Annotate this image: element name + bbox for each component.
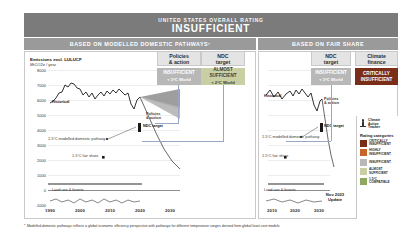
rating-climate-finance-value: CRITICALLY INSUFFICIENT — [355, 71, 398, 82]
rating-ndc-domestic-value: ALMOST SUFFICIENT — [201, 67, 245, 78]
label-land-use-forests: Land use & forests — [52, 188, 84, 192]
legend-swatch-critically-insufficient — [360, 140, 367, 147]
rating-climate-finance[interactable]: CRITICALLY INSUFFICIENT — [355, 68, 398, 85]
rating-ndc-target-domestic[interactable]: ALMOST SUFFICIENT < 2°C World — [201, 68, 245, 85]
connector-ndc-fairshare-h — [286, 141, 331, 142]
label-policies-action-2: & action — [146, 116, 161, 120]
update-tag: Nov 2023 Update — [318, 192, 352, 202]
fair-share-marker — [102, 156, 105, 159]
column-header-ndc-domestic-line2: target — [216, 59, 230, 65]
column-header-policies-action-line1: Policies — [169, 53, 189, 59]
legend-label-compat-2: COMPATIBLE — [369, 180, 390, 184]
connector-ndc-domestic — [223, 85, 224, 141]
connector-ndc-domestic-h — [142, 141, 224, 142]
overall-rating-banner: UNITED STATES OVERALL RATING INSUFFICIEN… — [24, 13, 398, 37]
column-header-ndc-target-domestic[interactable]: NDC target — [201, 51, 245, 66]
legend-item-critically-insufficient[interactable]: CRITICALLY INSUFFICIENT — [360, 140, 396, 147]
land-use-forests-line — [50, 199, 140, 203]
historical-line — [50, 83, 140, 109]
legend-swatch-almost-sufficient — [360, 168, 367, 175]
section-header-modelled-domestic-pathways: BASED ON MODELLED DOMESTIC PATHWAYS* — [24, 38, 256, 50]
column-header-ndc-fairshare-line2: target — [324, 59, 338, 65]
legend-swatch-insufficient — [360, 159, 367, 166]
rating-policies-action[interactable]: INSUFFICIENT < 3°C World — [157, 68, 201, 85]
legend-label-crit-2: INSUFFICIENT — [369, 142, 391, 146]
overall-rating-value: INSUFFICIENT — [24, 23, 398, 35]
legend-item-almost-sufficient[interactable]: ALMOST SUFFICIENT — [360, 168, 396, 175]
historical-line-right — [266, 89, 322, 111]
legend-panel: Climate Action Tracker Rating categories… — [356, 116, 398, 219]
column-header-policies-action[interactable]: Policies & action — [157, 51, 201, 66]
rating-policies-action-value: INSUFFICIENT — [163, 70, 195, 76]
country-rating-label: UNITED STATES OVERALL RATING — [24, 13, 398, 23]
label-land-use-forests-right: Land use & forests — [264, 188, 296, 192]
legend-item-insufficient[interactable]: INSUFFICIENT — [360, 159, 396, 166]
rating-ndc-fairshare-value: INSUFFICIENT — [315, 70, 347, 76]
legend-label-highly-2: INSUFFICIENT — [369, 152, 391, 156]
section-header-left-label: BASED ON MODELLED DOMESTIC PATHWAYS — [70, 41, 208, 47]
label-ndc-target: NDC target — [143, 124, 163, 128]
legend-swatch-15c-compatible — [360, 178, 367, 185]
connector-policies-action-h — [155, 123, 179, 124]
infographic-root: UNITED STATES OVERALL RATING INSUFFICIEN… — [0, 0, 419, 244]
rating-ndc-fairshare-world: < 3°C World — [319, 77, 343, 83]
pathway-15-line-right — [322, 99, 334, 167]
land-use-forests-line-right — [266, 199, 322, 203]
legend-item-15c-compatible[interactable]: 1.5°C COMPATIBLE — [360, 178, 396, 185]
label-fair-share-15-right: 1.5°C fair share — [262, 154, 288, 158]
rating-policies-action-world: < 3°C World — [167, 77, 191, 83]
legend-swatch-highly-insufficient — [360, 149, 367, 156]
footnote-text: Modelled domestic pathways reflects a gl… — [27, 224, 280, 228]
logo-line-tracker: Tracker — [368, 126, 380, 130]
footnote-star-icon: * — [24, 224, 25, 228]
column-header-climate-finance-line1: Climate — [367, 53, 386, 59]
legend-label-almost-2: SUFFICIENT — [369, 171, 388, 175]
legend-label-insuf-1: INSUFFICIENT — [369, 160, 391, 164]
section-header-fair-share: BASED ON FAIR SHARE — [258, 38, 398, 50]
column-header-ndc-fairshare-line1: NDC — [324, 53, 338, 59]
section-header-right-label: BASED ON FAIR SHARE — [292, 41, 364, 47]
legend-title: Rating categories — [360, 133, 396, 138]
label-historical-right: Historical — [264, 94, 281, 98]
thermometer-icon — [360, 119, 366, 128]
label-ndc-target-right: NDC target — [324, 124, 344, 128]
footnote: *Modelled domestic pathways reflects a g… — [24, 224, 398, 229]
footnote-marker-icon: * — [208, 42, 210, 47]
column-header-ndc-target-fairshare[interactable]: NDC target — [311, 51, 351, 66]
update-tag-line2: Update — [318, 197, 352, 202]
label-pathway-15-domestic-right: 1.5°C modelled domestic pathway — [262, 135, 319, 139]
column-header-ndc-domestic-line1: NDC — [216, 53, 230, 59]
column-header-climate-finance[interactable]: Climate finance — [355, 51, 398, 66]
label-pathway-15-domestic: 1.5°C modelled domestic pathway — [48, 137, 105, 141]
connector-ndc-fairshare — [331, 85, 332, 141]
rating-ndc-target-fairshare[interactable]: INSUFFICIENT < 3°C World — [311, 68, 351, 85]
connector-policies-action — [178, 85, 179, 123]
ndc-target-marker — [138, 123, 141, 132]
label-historical: Historical — [52, 100, 69, 104]
climate-action-tracker-logo: Climate Action Tracker — [360, 119, 396, 130]
column-header-climate-finance-line2: finance — [367, 59, 386, 65]
label-fair-share-15: 1.5°C fair share — [72, 154, 98, 158]
ndc-target-marker-right — [320, 123, 323, 132]
legend-item-highly-insufficient[interactable]: HIGHLY INSUFFICIENT — [360, 149, 396, 156]
column-header-policies-action-line2: & action — [169, 59, 189, 65]
